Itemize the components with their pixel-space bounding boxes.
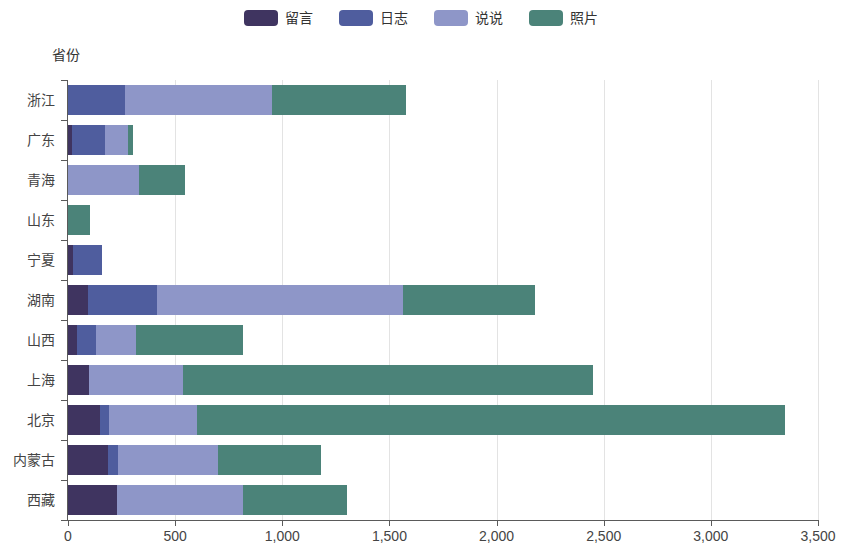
category-label-6: 山西 bbox=[27, 320, 55, 360]
bar-row bbox=[68, 80, 818, 120]
bar-segment[interactable] bbox=[403, 285, 535, 315]
category-label-10: 西藏 bbox=[27, 480, 55, 520]
stacked-bar[interactable] bbox=[68, 85, 406, 115]
value-tick-2500 bbox=[604, 520, 605, 526]
category-label-1: 广东 bbox=[27, 120, 55, 160]
value-label-3500: 3,500 bbox=[800, 528, 835, 544]
value-tick-500 bbox=[175, 520, 176, 526]
legend-item-liuyan[interactable]: 留言 bbox=[244, 10, 313, 26]
bar-segment[interactable] bbox=[100, 405, 109, 435]
value-label-2500: 2,500 bbox=[586, 528, 621, 544]
value-tick-2000 bbox=[497, 520, 498, 526]
stacked-bar[interactable] bbox=[68, 365, 593, 395]
legend-label-rizhi: 日志 bbox=[380, 10, 408, 26]
category-axis-labels: 浙江广东青海山东宁夏湖南山西上海北京内蒙古西藏 bbox=[0, 80, 67, 520]
bar-segment[interactable] bbox=[72, 125, 105, 155]
category-tick bbox=[61, 520, 67, 521]
stacked-bar[interactable] bbox=[68, 325, 243, 355]
bar-segment[interactable] bbox=[68, 485, 117, 515]
category-label-4: 宁夏 bbox=[27, 240, 55, 280]
bar-segment[interactable] bbox=[68, 405, 100, 435]
value-tick-1000 bbox=[282, 520, 283, 526]
value-label-3000: 3,000 bbox=[693, 528, 728, 544]
bar-segment[interactable] bbox=[68, 365, 89, 395]
stacked-bar[interactable] bbox=[68, 485, 347, 515]
stacked-bar[interactable] bbox=[68, 125, 133, 155]
value-label-500: 500 bbox=[163, 528, 186, 544]
legend-label-shuoshuo: 说说 bbox=[475, 10, 503, 26]
bar-row bbox=[68, 240, 818, 280]
category-label-0: 浙江 bbox=[27, 80, 55, 120]
bar-row bbox=[68, 400, 818, 440]
bar-segment[interactable] bbox=[125, 85, 272, 115]
gridline-3500 bbox=[818, 80, 819, 520]
bar-segment[interactable] bbox=[73, 245, 102, 275]
legend-label-zhaopian: 照片 bbox=[570, 10, 598, 26]
stacked-bar[interactable] bbox=[68, 165, 185, 195]
value-label-1000: 1,000 bbox=[265, 528, 300, 544]
bar-segment[interactable] bbox=[218, 445, 321, 475]
bar-segment[interactable] bbox=[68, 285, 88, 315]
value-axis-labels: 05001,0001,5002,0002,5003,0003,500 bbox=[0, 528, 841, 548]
bar-segment[interactable] bbox=[89, 365, 183, 395]
category-label-5: 湖南 bbox=[27, 280, 55, 320]
value-label-1500: 1,500 bbox=[372, 528, 407, 544]
stacked-bar[interactable] bbox=[68, 285, 535, 315]
category-label-7: 上海 bbox=[27, 360, 55, 400]
bar-segment[interactable] bbox=[197, 405, 785, 435]
value-label-0: 0 bbox=[64, 528, 72, 544]
bar-segment[interactable] bbox=[88, 285, 157, 315]
bar-segment[interactable] bbox=[157, 285, 403, 315]
legend-item-zhaopian[interactable]: 照片 bbox=[529, 10, 598, 26]
bar-row bbox=[68, 160, 818, 200]
legend-swatch-rizhi bbox=[339, 10, 373, 26]
value-tick-3500 bbox=[818, 520, 819, 526]
legend-label-liuyan: 留言 bbox=[285, 10, 313, 26]
category-label-2: 青海 bbox=[27, 160, 55, 200]
legend-swatch-zhaopian bbox=[529, 10, 563, 26]
stacked-bar[interactable] bbox=[68, 405, 785, 435]
bar-segment[interactable] bbox=[108, 445, 118, 475]
legend-swatch-liuyan bbox=[244, 10, 278, 26]
bar-segment[interactable] bbox=[183, 365, 593, 395]
value-axis-line bbox=[68, 520, 818, 521]
category-label-8: 北京 bbox=[27, 400, 55, 440]
legend-item-shuoshuo[interactable]: 说说 bbox=[434, 10, 503, 26]
bar-segment[interactable] bbox=[136, 325, 243, 355]
value-label-2000: 2,000 bbox=[479, 528, 514, 544]
value-tick-0 bbox=[68, 520, 69, 526]
category-label-3: 山东 bbox=[27, 200, 55, 240]
chart-legend: 留言日志说说照片 bbox=[0, 6, 841, 30]
value-tick-3000 bbox=[711, 520, 712, 526]
category-axis-line bbox=[67, 80, 68, 521]
bar-row bbox=[68, 320, 818, 360]
bar-row bbox=[68, 360, 818, 400]
legend-item-rizhi[interactable]: 日志 bbox=[339, 10, 408, 26]
bar-segment[interactable] bbox=[68, 325, 77, 355]
bar-segment[interactable] bbox=[77, 325, 97, 355]
bar-segment[interactable] bbox=[68, 445, 108, 475]
bar-row bbox=[68, 440, 818, 480]
category-axis-title: 省份 bbox=[52, 44, 80, 64]
bar-segment[interactable] bbox=[68, 205, 90, 235]
bar-segment[interactable] bbox=[109, 405, 197, 435]
category-label-9: 内蒙古 bbox=[13, 440, 55, 480]
bar-segment[interactable] bbox=[96, 325, 136, 355]
plot-area bbox=[68, 80, 818, 520]
stacked-bar[interactable] bbox=[68, 445, 321, 475]
bar-segment[interactable] bbox=[139, 165, 185, 195]
bar-segment[interactable] bbox=[105, 125, 128, 155]
bar-series-group bbox=[68, 80, 818, 520]
legend-swatch-shuoshuo bbox=[434, 10, 468, 26]
bar-segment[interactable] bbox=[128, 125, 133, 155]
bar-segment[interactable] bbox=[117, 485, 243, 515]
bar-segment[interactable] bbox=[272, 85, 406, 115]
stacked-bar[interactable] bbox=[68, 205, 90, 235]
bar-segment[interactable] bbox=[243, 485, 347, 515]
bar-segment[interactable] bbox=[68, 165, 139, 195]
stacked-bar[interactable] bbox=[68, 245, 102, 275]
bar-segment[interactable] bbox=[118, 445, 217, 475]
bar-row bbox=[68, 200, 818, 240]
bar-segment[interactable] bbox=[68, 85, 125, 115]
value-tick-1500 bbox=[389, 520, 390, 526]
